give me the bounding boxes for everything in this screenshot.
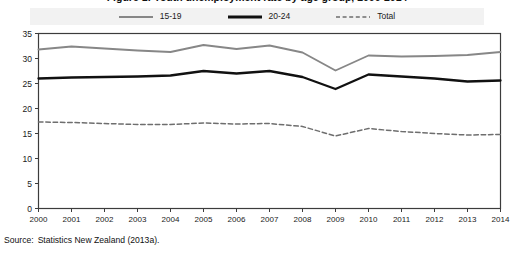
x-tick-label: 2013 <box>459 215 477 224</box>
x-tick-label: 2001 <box>63 215 81 224</box>
figure-container: Figure 1: Youth unemployment rate by age… <box>0 0 514 253</box>
x-tick-label: 2012 <box>426 215 444 224</box>
x-tick-label: 2003 <box>129 215 147 224</box>
x-tick-label: 2010 <box>360 215 378 224</box>
source-note: Source:Statistics New Zealand (2013a). <box>4 235 159 245</box>
x-tick-label: 2008 <box>294 215 312 224</box>
x-tick-label: 2006 <box>228 215 246 224</box>
x-tick-label: 2005 <box>195 215 213 224</box>
x-tick-label: 2007 <box>261 215 279 224</box>
x-tick-label: 2014 <box>492 215 510 224</box>
x-tick-label: 2004 <box>162 215 180 224</box>
x-tick-label: 2002 <box>96 215 114 224</box>
source-label: Source: <box>4 235 34 245</box>
x-tick-label: 2009 <box>327 215 345 224</box>
x-tick-label: 2011 <box>393 215 410 224</box>
x-tick-label: 2000 <box>30 215 48 224</box>
x-axis-labels: 2000200120022003200420052006200720082009… <box>0 0 514 253</box>
source-text: Statistics New Zealand (2013a). <box>38 235 160 245</box>
